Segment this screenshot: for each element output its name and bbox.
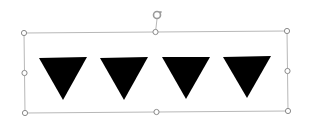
triangle-1-shape[interactable] (39, 57, 87, 100)
handle-top-right[interactable] (284, 28, 289, 33)
handle-bottom-left[interactable] (22, 110, 27, 115)
shape-group[interactable] (39, 56, 271, 100)
handle-top-middle[interactable] (153, 29, 158, 34)
triangle-4-shape[interactable] (223, 56, 271, 98)
handle-top-left[interactable] (21, 30, 26, 35)
rotate-handle-icon[interactable] (154, 11, 163, 19)
triangle-2-shape[interactable] (100, 57, 148, 100)
handle-middle-left[interactable] (22, 70, 27, 75)
triangle-3-shape[interactable] (162, 57, 210, 99)
handle-middle-right[interactable] (285, 68, 290, 73)
handle-bottom-middle[interactable] (154, 109, 159, 114)
slide-canvas (0, 0, 309, 122)
handle-bottom-right[interactable] (285, 108, 290, 113)
